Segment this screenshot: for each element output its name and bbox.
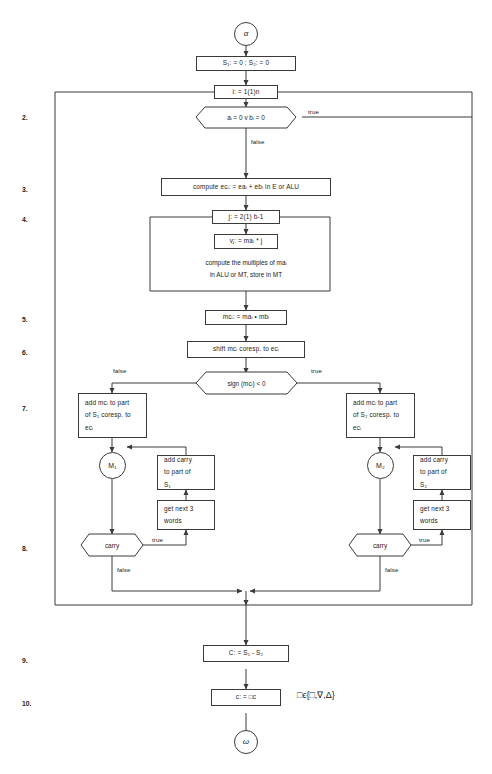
shape-carry-right-hexagon xyxy=(349,534,411,556)
process-get-words-left: get next 3 words xyxy=(157,500,215,530)
edge-label-true-sign: true xyxy=(311,367,322,374)
process-compute-ec-label: compute ecᵢ: = eaᵢ + ebᵢ in E or ALU xyxy=(193,181,299,193)
process-mc-assign: mcᵢ: = maᵢ • mbᵢ xyxy=(205,310,287,325)
process-get-words-left-line1: get next 3 xyxy=(164,503,194,515)
terminal-end-label: ω xyxy=(243,734,249,749)
step-number: 4. xyxy=(22,216,28,223)
edge-label-false-top: false xyxy=(251,138,265,145)
edge-carryleft-false-to-join xyxy=(112,556,242,591)
process-loop-j: j: = 2(1) b-1 xyxy=(212,210,280,224)
note-operator-set: □ϵ{□,∇,Δ} xyxy=(297,690,335,700)
process-c-final-label: c: = □c xyxy=(236,691,256,703)
process-add-to-s2: add mcᵢ to part of S₂ coresp. to ecᵢ xyxy=(346,393,415,438)
step-number: 5. xyxy=(22,316,28,323)
edge-carryleft-true-to-words xyxy=(143,530,186,545)
note-compute-multiples-line1: compute the multiples of maᵢ xyxy=(156,257,336,269)
process-c-final: c: = □c xyxy=(211,689,281,706)
process-shift-mc: shift mcᵢ coresp. to ecᵢ xyxy=(187,341,305,358)
connector-m2: M₂ xyxy=(367,452,394,479)
terminal-start: α xyxy=(234,22,258,46)
process-v-assign: vⱼ: = maᵢ * j xyxy=(214,234,278,249)
connector-m2-label: M₂ xyxy=(376,459,385,472)
edge-label-true-carry-left: true xyxy=(152,536,163,543)
process-c-assign: C: = S₁ - S₂ xyxy=(203,645,289,662)
process-add-to-s2-line1: add mcᵢ to part xyxy=(353,397,397,409)
step-number: 8. xyxy=(22,545,28,552)
process-get-words-right-line1: get next 3 xyxy=(420,503,450,515)
process-compute-ec: compute ecᵢ: = eaᵢ + ebᵢ in E or ALU xyxy=(161,178,331,196)
process-add-carry-s2-line2: to part of xyxy=(420,466,447,478)
process-add-carry-s1-line3: S₁ xyxy=(164,479,171,491)
step-number: 6. xyxy=(22,349,28,356)
terminal-start-label: α xyxy=(244,26,249,41)
edge-label-false-carry-left: false xyxy=(117,566,131,573)
step-number: 3. xyxy=(22,186,28,193)
note-operator-set-label: □ϵ{□,∇,Δ} xyxy=(297,690,335,700)
process-init-sums: S₁: = 0 ; S₂: = 0 xyxy=(196,56,296,71)
edge-label-true-top: true xyxy=(308,108,319,115)
process-shift-mc-label: shift mcᵢ coresp. to ecᵢ xyxy=(213,343,279,355)
edge-label-false-sign: false xyxy=(113,367,127,374)
terminal-end: ω xyxy=(234,730,258,754)
shape-sign-test-hexagon xyxy=(196,372,297,394)
process-get-words-left-line2: words xyxy=(164,515,182,527)
edge-carryright-false-to-join xyxy=(250,556,380,591)
connector-m1: M₁ xyxy=(99,452,126,479)
note-compute-multiples-line2: in ALU or MT, store in MT xyxy=(156,269,336,281)
edge-label-false-carry-right: false xyxy=(385,566,399,573)
shape-carry-left-hexagon xyxy=(81,534,143,556)
process-loop-i: i: = 1(1)n xyxy=(214,85,278,99)
step-number: 9. xyxy=(22,657,28,664)
process-add-carry-s2: add carry to part of S₂ xyxy=(413,455,471,490)
process-add-carry-s2-line1: add carry xyxy=(420,454,448,466)
process-add-carry-s1-line2: to part of xyxy=(164,466,191,478)
process-add-to-s1-line2: of S₁ coresp. to xyxy=(85,409,131,421)
process-add-carry-s2-line3: S₂ xyxy=(420,479,427,491)
edge-sign-false-to-left xyxy=(112,383,196,393)
process-mc-assign-label: mcᵢ: = maᵢ • mbᵢ xyxy=(223,311,270,323)
process-add-to-s1: add mcᵢ to part of S₁ coresp. to ecᵢ xyxy=(78,393,147,438)
step-number: 2. xyxy=(22,114,28,121)
step-number: 7. xyxy=(22,405,28,412)
process-add-to-s2-line3: ecᵢ xyxy=(353,422,361,434)
shape-test-zero-hexagon xyxy=(196,107,296,128)
process-get-words-right-line2: words xyxy=(420,515,438,527)
process-init-sums-label: S₁: = 0 ; S₂: = 0 xyxy=(223,57,269,69)
process-loop-i-label: i: = 1(1)n xyxy=(233,86,260,98)
edge-sign-true-to-right xyxy=(297,383,380,393)
process-add-carry-s1-line1: add carry xyxy=(164,454,192,466)
process-loop-j-label: j: = 2(1) b-1 xyxy=(229,211,264,223)
process-v-assign-label: vⱼ: = maᵢ * j xyxy=(230,235,263,247)
connector-m1-label: M₁ xyxy=(108,459,117,472)
process-add-to-s1-line1: add mcᵢ to part xyxy=(85,397,129,409)
process-add-carry-s1: add carry to part of S₁ xyxy=(157,455,215,490)
flowchart-canvas: α ω S₁: = 0 ; S₂: = 0 i: = 1(1)n aᵢ = 0 … xyxy=(0,0,492,774)
process-add-to-s2-line2: of S₂ coresp. to xyxy=(353,409,399,421)
step-number: 10. xyxy=(22,700,31,707)
process-get-words-right: get next 3 words xyxy=(413,500,471,530)
process-add-to-s1-line3: ecᵢ xyxy=(85,422,93,434)
edge-label-true-carry-right: true xyxy=(419,536,430,543)
note-compute-multiples: compute the multiples of maᵢ in ALU or M… xyxy=(156,257,336,281)
process-c-assign-label: C: = S₁ - S₂ xyxy=(229,647,263,659)
